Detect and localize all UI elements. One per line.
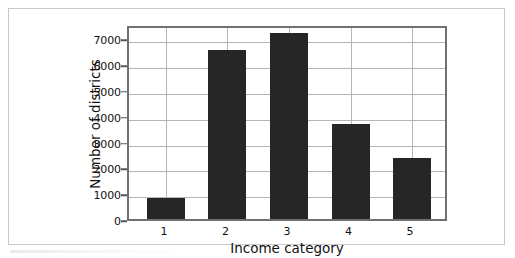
y-axis-tick-label: 6000 xyxy=(93,60,121,73)
y-axis-tick-label: 4000 xyxy=(93,111,121,124)
y-axis-tick-label: 0 xyxy=(114,215,121,228)
x-axis-tick-label: 4 xyxy=(345,225,352,238)
y-axis-tick-label: 3000 xyxy=(93,137,121,150)
x-axis-tick-labels: 12345 xyxy=(127,223,447,241)
plot-area xyxy=(127,26,447,221)
bar xyxy=(393,158,431,219)
gridline-vertical xyxy=(166,28,167,219)
x-axis-tick-label: 1 xyxy=(160,225,167,238)
y-axis-tick-label: 2000 xyxy=(93,163,121,176)
figure-card: Number of districts 01000200030004000500… xyxy=(8,8,505,245)
page-edge-artifact xyxy=(10,250,190,253)
y-axis-tick-label: 5000 xyxy=(93,85,121,98)
bar xyxy=(208,50,246,219)
x-axis-tick-label: 3 xyxy=(284,225,291,238)
figure-screenshot: Number of districts 01000200030004000500… xyxy=(0,0,515,258)
bar xyxy=(147,198,185,219)
bar xyxy=(332,124,370,219)
x-axis-tick-label: 5 xyxy=(407,225,414,238)
y-axis-tick-label: 1000 xyxy=(93,189,121,202)
bar xyxy=(270,33,308,219)
plot-inner xyxy=(129,28,445,219)
x-axis-title: Income category xyxy=(127,240,447,256)
x-axis-tick-label: 2 xyxy=(222,225,229,238)
y-axis-tick-label: 7000 xyxy=(93,34,121,47)
y-axis-tick-labels: 01000200030004000500060007000 xyxy=(81,26,121,221)
